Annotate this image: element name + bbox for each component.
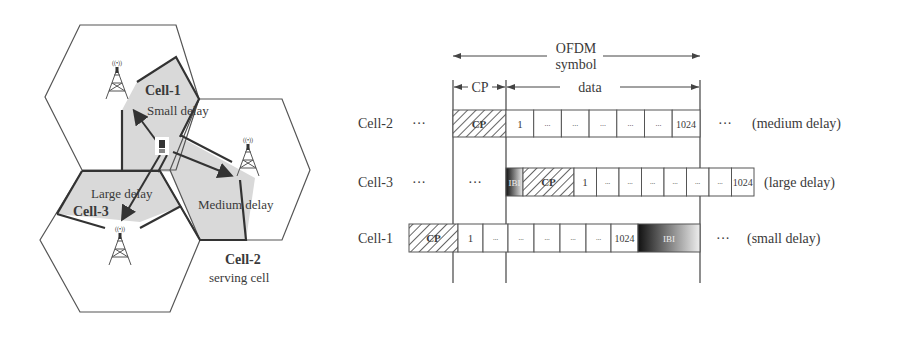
svg-text:Cell-3: Cell-3	[358, 175, 393, 190]
svg-text:...: ...	[605, 178, 611, 186]
cell-3-label: Cell-3	[73, 204, 109, 219]
cell-2-label: Cell-2	[225, 252, 261, 267]
row-cell-2: Cell-2 ··· CP 1 ... ... ... ... ... 1024…	[358, 110, 841, 137]
svg-text:symbol: symbol	[555, 57, 596, 72]
svg-text:1024: 1024	[676, 119, 696, 130]
svg-text:1024: 1024	[615, 233, 635, 244]
svg-text:IBI: IBI	[509, 178, 521, 188]
svg-text:...: ...	[544, 234, 550, 242]
svg-text:((•)): ((•))	[112, 60, 122, 67]
svg-text:data: data	[578, 80, 602, 95]
svg-text:(small delay): (small delay)	[747, 231, 821, 247]
svg-text:···: ···	[716, 231, 730, 246]
svg-text:1: 1	[468, 232, 474, 244]
large-delay-label: Large delay	[91, 186, 153, 201]
svg-text:...: ...	[545, 119, 551, 128]
svg-text:...: ...	[518, 234, 524, 242]
svg-text:...: ...	[673, 178, 679, 186]
tower-icon-cell-3: ((•))	[109, 226, 131, 265]
mobile-phone-icon	[155, 137, 169, 155]
svg-text:(large delay): (large delay)	[764, 175, 835, 191]
cell-network-diagram: ((•)) ((•)) ((•)) Cell-1 Small delay Med…	[0, 0, 320, 338]
cell-1-label: Cell-1	[145, 83, 181, 98]
svg-text:...: ...	[572, 119, 578, 128]
svg-text:1: 1	[517, 118, 523, 130]
svg-text:···: ···	[468, 175, 482, 190]
svg-text:OFDM: OFDM	[556, 41, 597, 56]
serving-cell-label: serving cell	[209, 270, 270, 285]
row-cell-3: Cell-3 ··· ··· IBI CP 1 ... ... ... ... …	[358, 168, 835, 196]
svg-text:...: ...	[493, 234, 499, 242]
svg-text:CP: CP	[426, 232, 441, 244]
svg-text:...: ...	[695, 178, 701, 186]
svg-text:1: 1	[582, 176, 588, 188]
small-delay-label: Small delay	[147, 103, 209, 118]
svg-text:···: ···	[412, 175, 426, 190]
svg-text:···: ···	[412, 116, 426, 131]
svg-text:CP: CP	[541, 176, 556, 188]
svg-text:CP: CP	[472, 118, 487, 130]
cp-span: CP	[454, 80, 505, 95]
ofdm-symbol-span: OFDM symbol	[453, 41, 700, 72]
svg-text:Cell-1: Cell-1	[358, 231, 393, 246]
svg-text:IBI: IBI	[663, 234, 675, 244]
svg-text:((•)): ((•))	[115, 226, 125, 233]
svg-text:...: ...	[628, 178, 634, 186]
svg-text:((•)): ((•))	[243, 137, 253, 144]
svg-text:CP: CP	[471, 80, 488, 95]
svg-text:Cell-2: Cell-2	[358, 116, 393, 131]
data-span: data	[507, 80, 699, 95]
svg-text:···: ···	[718, 116, 732, 131]
row-cell-1: Cell-1 CP 1 ... ... ... ... ... 1024 IBI…	[358, 224, 821, 252]
svg-text:(medium delay): (medium delay)	[752, 116, 841, 132]
svg-text:...: ...	[650, 178, 656, 186]
svg-text:...: ...	[655, 119, 661, 128]
svg-text:...: ...	[596, 234, 602, 242]
svg-text:...: ...	[628, 119, 634, 128]
svg-text:...: ...	[718, 178, 724, 186]
svg-text:...: ...	[600, 119, 606, 128]
svg-text:...: ...	[570, 234, 576, 242]
svg-text:1024: 1024	[733, 177, 753, 188]
medium-delay-label: Medium delay	[198, 197, 274, 212]
tower-icon-cell-1: ((•))	[106, 60, 128, 99]
